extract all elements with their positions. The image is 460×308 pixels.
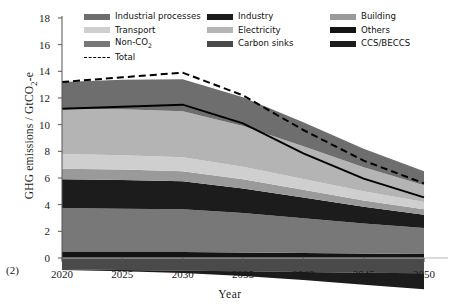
legend-item-transport[interactable]: Transport — [84, 24, 201, 38]
chart-figure: 024681012141618 202020252030203520402045… — [0, 0, 460, 308]
legend-swatch-building — [330, 14, 356, 20]
legend-swatch-transport — [84, 27, 110, 33]
legend-label-ccs-beccs: CCS/BECCS — [361, 39, 410, 48]
legend-label-non-co2: Non-CO2 — [115, 38, 152, 49]
legend-swatch-carbon-sinks — [207, 41, 233, 47]
y-tick-label: 18 — [24, 13, 50, 23]
legend-item-non-co2[interactable]: Non-CO2 — [84, 37, 201, 51]
legend-item-ccs-beccs[interactable]: CCS/BECCS — [330, 37, 410, 51]
legend-label-industry: Industry — [238, 12, 273, 21]
x-axis-label: Year — [0, 288, 460, 300]
x-tick-label: 2025 — [92, 268, 152, 280]
legend-item-building[interactable]: Building — [330, 10, 410, 24]
x-tick-label: 2050 — [394, 268, 454, 280]
x-tick-label: 2045 — [334, 268, 394, 280]
legend-label-building: Building — [361, 12, 396, 21]
chart-legend: Industrial processesTransportNon-CO2Tota… — [84, 10, 456, 68]
legend-label-others: Others — [361, 26, 390, 35]
legend-swatch-others — [330, 27, 356, 33]
legend-label-transport: Transport — [115, 26, 155, 35]
legend-item-electricity[interactable]: Electricity — [207, 24, 293, 38]
legend-column-3: BuildingOthersCCS/BECCS — [330, 10, 410, 51]
legend-label-total: Total — [115, 53, 135, 62]
x-tick-label: 2020 — [32, 268, 92, 280]
legend-swatch-industrial-processes — [84, 14, 110, 20]
legend-item-total[interactable]: Total — [84, 51, 201, 65]
legend-column-2: IndustryElectricityCarbon sinks — [207, 10, 293, 51]
legend-swatch-non-co2 — [84, 41, 110, 47]
legend-swatch-industry — [207, 14, 233, 20]
x-tick-label: 2030 — [153, 268, 213, 280]
legend-item-industry[interactable]: Industry — [207, 10, 293, 24]
y-tick-label: 0 — [24, 253, 50, 263]
legend-item-carbon-sinks[interactable]: Carbon sinks — [207, 37, 293, 51]
legend-swatch-total — [84, 57, 110, 58]
y-axis-label-text: GHG emissions / GtCO2-e — [23, 72, 35, 199]
legend-label-electricity: Electricity — [238, 26, 281, 35]
legend-swatch-ccs-beccs — [330, 41, 356, 47]
legend-item-others[interactable]: Others — [330, 24, 410, 38]
legend-column-1: Industrial processesTransportNon-CO2Tota… — [84, 10, 201, 64]
legend-label-carbon-sinks: Carbon sinks — [238, 39, 293, 48]
x-tick-label: 2035 — [213, 268, 273, 280]
legend-label-industrial-processes: Industrial processes — [115, 12, 201, 21]
legend-swatch-electricity — [207, 27, 233, 33]
y-axis-label: GHG emissions / GtCO2-e — [23, 41, 38, 231]
x-tick-label: 2040 — [273, 268, 333, 280]
panel-tag: (2) — [6, 264, 19, 276]
legend-item-industrial-processes[interactable]: Industrial processes — [84, 10, 201, 24]
